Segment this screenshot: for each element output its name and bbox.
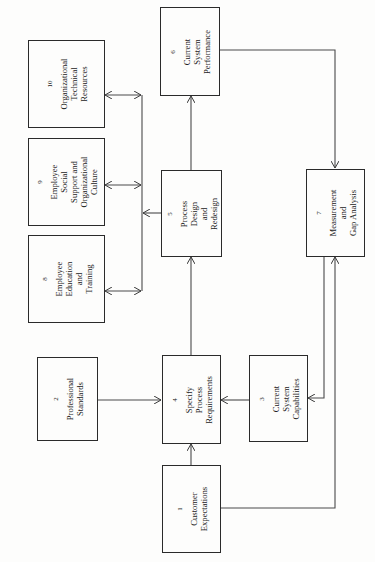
box-8-employee-education-training: 8 Employee Education and Training <box>28 235 105 323</box>
box-label: Employee Social Support and Organization… <box>48 157 98 208</box>
box-7-measurement-gap-analysis: 7 Measurement and Gap Analysis <box>306 169 365 257</box>
box-6-current-system-performance: 6 Current System Performance <box>160 7 220 96</box>
box-4-specify-process-requirements: 4 Specify Process Requirements <box>162 355 221 444</box>
box-number: 4 <box>170 376 179 424</box>
box-label: Employee Education and Training <box>53 260 93 298</box>
box-10-organizational-technical-resources: 10 Organizational Technical Resources <box>28 40 105 128</box>
edge-6-to-7 <box>219 50 335 168</box>
box-label: Process Design and Redesign <box>178 198 218 230</box>
box-number: 10 <box>45 59 54 110</box>
box-1-customer-expectations: 1 Customer Expectations <box>162 465 221 553</box>
box-number: 1 <box>175 487 184 531</box>
box-number: 3 <box>257 378 266 419</box>
box-number: 7 <box>314 190 323 237</box>
edge-7-to-3 <box>308 256 324 398</box>
box-9-employee-social-support: 9 Employee Social Support and Organizati… <box>28 138 105 226</box>
box-number: 6 <box>169 30 178 74</box>
box-2-professional-standards: 2 Professional Standards <box>37 357 98 441</box>
box-5-process-design-redesign: 5 Process Design and Redesign <box>161 170 222 257</box>
box-number: 9 <box>35 157 44 208</box>
box-label: Organizational Technical Resources <box>58 59 88 110</box>
box-label: Customer Expectations <box>188 487 208 531</box>
box-label: Professional Standards <box>64 378 84 421</box>
process-improvement-diagram: 10 Organizational Technical Resources 9 … <box>0 0 375 562</box>
box-label: Current System Performance <box>182 30 212 74</box>
box-number: 2 <box>51 378 60 421</box>
box-label: Current System Capabilities <box>270 378 300 419</box>
box-label: Measurement and Gap Analysis <box>327 190 357 237</box>
box-number: 8 <box>40 260 49 298</box>
box-number: 5 <box>165 198 174 230</box>
box-3-current-system-capabilities: 3 Current System Capabilities <box>249 355 308 442</box>
box-label: Specify Process Requirements <box>183 376 213 424</box>
